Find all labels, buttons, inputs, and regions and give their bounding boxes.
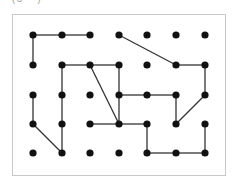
grid-dot bbox=[29, 149, 36, 156]
grid-dot bbox=[172, 149, 179, 156]
dot-grid-diagram bbox=[0, 0, 233, 183]
grid-dot bbox=[143, 61, 150, 68]
grid-dot bbox=[172, 61, 179, 68]
edge-line bbox=[119, 35, 176, 65]
grid-dot bbox=[172, 91, 179, 98]
grid-dot bbox=[29, 91, 36, 98]
grid-dot bbox=[172, 120, 179, 127]
grid-dot bbox=[58, 91, 65, 98]
grid-dot bbox=[201, 120, 208, 127]
grid-dot bbox=[201, 61, 208, 68]
grid-dot bbox=[115, 120, 122, 127]
grid-dot bbox=[201, 31, 208, 38]
edge-line bbox=[176, 95, 205, 124]
grid-dot bbox=[58, 61, 65, 68]
grid-dot bbox=[143, 120, 150, 127]
grid-dot bbox=[201, 91, 208, 98]
grid-dot bbox=[115, 31, 122, 38]
grid-dot bbox=[86, 120, 93, 127]
grid-dot bbox=[143, 91, 150, 98]
edge-line bbox=[33, 124, 62, 153]
grid-dot bbox=[86, 91, 93, 98]
grid-dot bbox=[115, 149, 122, 156]
grid-dot bbox=[143, 149, 150, 156]
grid-dot bbox=[201, 149, 208, 156]
grid-dot bbox=[86, 149, 93, 156]
grid-dot bbox=[58, 149, 65, 156]
grid-dot bbox=[29, 31, 36, 38]
grid-dot bbox=[29, 120, 36, 127]
edge-line bbox=[90, 65, 119, 124]
grid-dot bbox=[143, 31, 150, 38]
grid-dot bbox=[115, 91, 122, 98]
grid-dot bbox=[29, 61, 36, 68]
grid-dot bbox=[86, 31, 93, 38]
grid-dot bbox=[115, 61, 122, 68]
grid-dot bbox=[86, 61, 93, 68]
grid-dot bbox=[172, 31, 179, 38]
grid-dot bbox=[58, 120, 65, 127]
grid-dot bbox=[58, 31, 65, 38]
